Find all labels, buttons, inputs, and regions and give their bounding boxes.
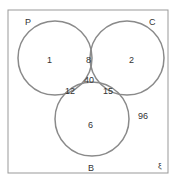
region-p-b: 12 — [65, 86, 75, 96]
set-label-c: C — [149, 17, 156, 27]
set-label-p: P — [25, 17, 31, 27]
region-p-c-b: 40 — [84, 75, 94, 85]
region-b-only: 6 — [88, 120, 93, 130]
venn-diagram: P C B 1 2 8 40 12 15 6 96 ξ — [0, 0, 170, 179]
region-c-only: 2 — [129, 55, 134, 65]
universal-symbol: ξ — [158, 161, 162, 170]
set-label-b: B — [88, 163, 94, 173]
region-p-c: 8 — [86, 55, 91, 65]
region-c-b: 15 — [103, 86, 113, 96]
outside-value: 96 — [138, 111, 148, 121]
region-p-only: 1 — [47, 55, 52, 65]
